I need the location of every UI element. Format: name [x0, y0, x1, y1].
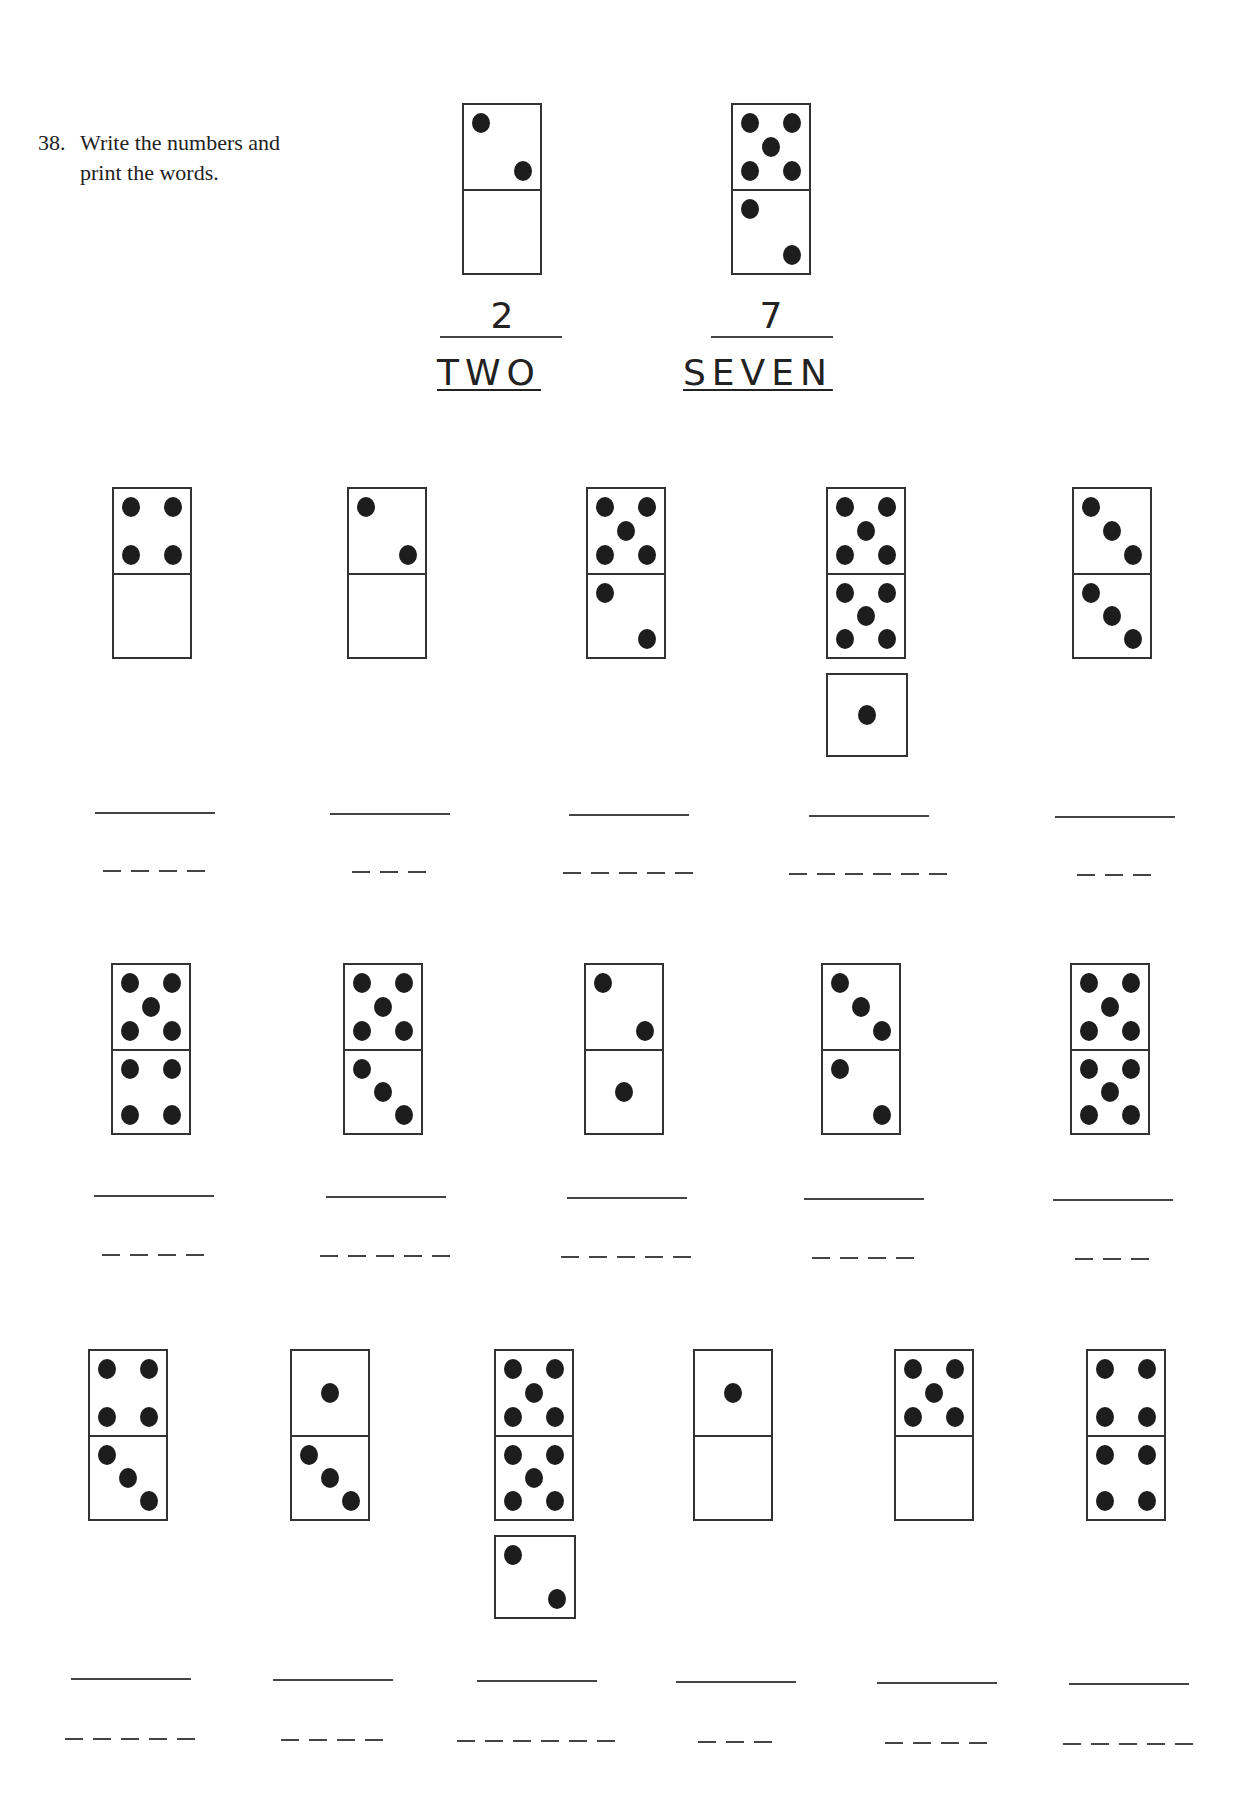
pip-icon	[163, 1059, 181, 1079]
word-answer-dashes[interactable]	[457, 1740, 615, 1742]
domino-half-2	[588, 573, 664, 657]
domino	[821, 963, 901, 1135]
exercise-number: 38.	[38, 128, 80, 158]
instruction: 38.Write the numbers and print the words…	[38, 128, 280, 188]
domino-half-3	[292, 1435, 368, 1519]
domino-half-2	[586, 965, 662, 1049]
pip-icon	[1124, 629, 1142, 649]
number-answer-line[interactable]	[477, 1680, 597, 1682]
word-answer-dashes[interactable]	[885, 1742, 987, 1744]
domino-half-0	[695, 1435, 771, 1519]
pip-icon	[873, 1021, 891, 1041]
pip-icon	[1096, 1359, 1114, 1379]
domino	[826, 487, 906, 659]
pip-icon	[142, 997, 160, 1017]
word-answer-dashes[interactable]	[103, 870, 205, 872]
domino	[88, 1349, 168, 1521]
pip-icon	[831, 973, 849, 993]
pip-icon	[1080, 1021, 1098, 1041]
domino	[693, 1349, 773, 1521]
domino-half-0	[896, 1435, 972, 1519]
word-answer-dashes[interactable]	[65, 1738, 195, 1740]
pip-icon	[1103, 521, 1121, 541]
number-answer-line[interactable]	[94, 1195, 214, 1197]
domino	[894, 1349, 974, 1521]
domino	[343, 963, 423, 1135]
number-answer-line[interactable]	[71, 1678, 191, 1680]
pip-icon	[904, 1407, 922, 1427]
domino	[290, 1349, 370, 1521]
pip-icon	[724, 1383, 742, 1403]
domino-half-5	[733, 105, 809, 189]
pip-icon	[617, 521, 635, 541]
domino-half-4	[114, 489, 190, 573]
pip-icon	[1096, 1445, 1114, 1465]
number-answer-line[interactable]	[804, 1198, 924, 1200]
number-answer-line[interactable]	[1069, 1683, 1189, 1685]
number-answer-line[interactable]	[877, 1682, 997, 1684]
word-answer-dashes[interactable]	[563, 872, 693, 874]
number-answer-line[interactable]	[95, 812, 215, 814]
word-answer-dashes[interactable]	[1063, 1743, 1193, 1745]
word-answer-dashes[interactable]	[102, 1254, 204, 1256]
number-answer-line[interactable]	[676, 1681, 796, 1683]
domino	[1070, 963, 1150, 1135]
pip-icon	[1082, 497, 1100, 517]
number-answer-line[interactable]	[567, 1197, 687, 1199]
pip-icon	[596, 545, 614, 565]
domino	[347, 487, 427, 659]
number-answer-line[interactable]	[326, 1196, 446, 1198]
pip-icon	[836, 545, 854, 565]
domino	[111, 963, 191, 1135]
pip-icon	[504, 1445, 522, 1465]
pip-icon	[399, 545, 417, 565]
domino	[586, 487, 666, 659]
pip-icon	[321, 1383, 339, 1403]
word-answer-dashes[interactable]	[352, 871, 426, 873]
pip-icon	[783, 161, 801, 181]
word-answer-dashes[interactable]	[1077, 874, 1151, 876]
pip-icon	[353, 1059, 371, 1079]
pip-icon	[596, 497, 614, 517]
pip-icon	[741, 199, 759, 219]
number-answer-line[interactable]	[569, 814, 689, 816]
word-answer-dashes[interactable]	[812, 1257, 914, 1259]
number-answer-line[interactable]	[809, 815, 929, 817]
pip-icon	[638, 629, 656, 649]
pip-icon	[1096, 1491, 1114, 1511]
pip-icon	[98, 1359, 116, 1379]
pip-icon	[946, 1359, 964, 1379]
pip-icon	[395, 1021, 413, 1041]
pip-icon	[504, 1545, 522, 1565]
domino	[1072, 487, 1152, 659]
domino-half-2	[349, 489, 425, 573]
instruction-line-1: Write the numbers and	[80, 130, 280, 155]
number-answer-line[interactable]	[273, 1679, 393, 1681]
domino-half-0	[464, 189, 540, 273]
pip-icon	[1080, 1105, 1098, 1125]
domino-half-5	[1072, 1049, 1148, 1133]
domino-half-5	[496, 1351, 572, 1435]
word-answer-dashes[interactable]	[320, 1255, 450, 1257]
domino-half-0	[349, 573, 425, 657]
pip-icon	[374, 997, 392, 1017]
word-answer-dashes[interactable]	[789, 873, 947, 875]
example-number-line[interactable]	[440, 336, 562, 338]
domino	[494, 1349, 574, 1521]
number-answer-line[interactable]	[1053, 1199, 1173, 1201]
pip-icon	[514, 161, 532, 181]
pip-icon	[121, 973, 139, 993]
word-answer-dashes[interactable]	[1075, 1258, 1149, 1260]
domino	[731, 103, 811, 275]
number-answer-line[interactable]	[330, 813, 450, 815]
word-answer-dashes[interactable]	[281, 1739, 383, 1741]
number-answer-line[interactable]	[1055, 816, 1175, 818]
pip-icon	[546, 1407, 564, 1427]
pip-icon	[836, 497, 854, 517]
word-answer-dashes[interactable]	[561, 1256, 691, 1258]
domino-half-5	[1072, 965, 1148, 1049]
domino-half-4	[113, 1049, 189, 1133]
word-answer-dashes[interactable]	[698, 1741, 772, 1743]
example-number-line[interactable]	[711, 336, 833, 338]
domino-half-3	[1074, 573, 1150, 657]
